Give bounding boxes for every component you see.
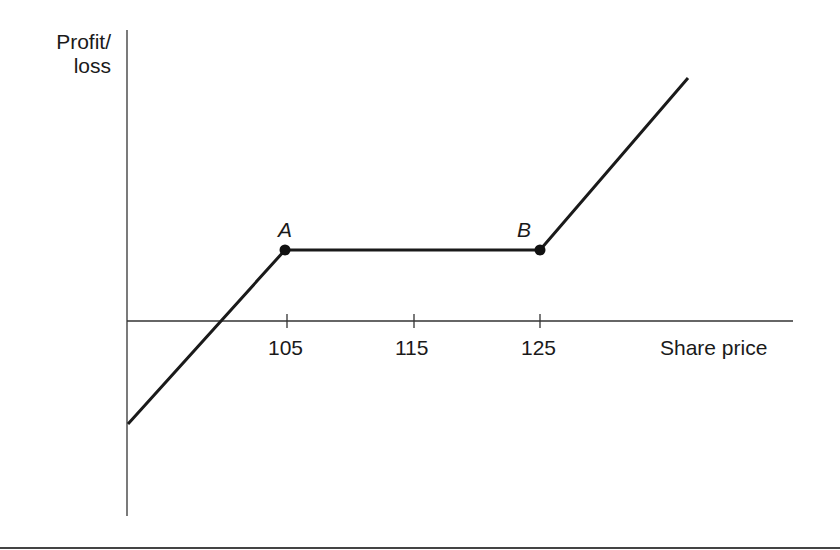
x-tick-label-115: 115 [395, 336, 428, 360]
point-b-marker [535, 245, 546, 256]
x-axis-label: Share price [660, 336, 767, 360]
chart-canvas [0, 0, 840, 550]
point-a-marker [280, 245, 291, 256]
y-axis-label: Profit/ loss [56, 30, 111, 78]
x-tick-label-105: 105 [268, 336, 303, 360]
y-axis-label-line1: Profit/ [56, 30, 111, 54]
y-axis-label-line2: loss [56, 54, 111, 78]
point-a-label: A [278, 218, 292, 242]
payoff-line [128, 78, 688, 424]
x-tick-label-125: 125 [521, 336, 556, 360]
point-b-label: B [517, 218, 531, 242]
